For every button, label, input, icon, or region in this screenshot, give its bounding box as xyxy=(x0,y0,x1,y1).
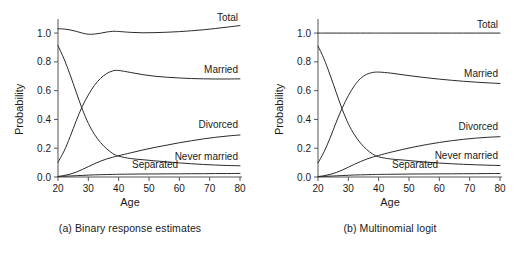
curve-label-total: Total xyxy=(477,19,498,30)
series-line-total xyxy=(58,26,240,35)
plot-area-a: 0.00.20.40.60.81.020304050607080TotalMar… xyxy=(0,0,260,253)
y-axis-tick-label: 1.0 xyxy=(297,28,311,39)
x-axis-tick-label: 70 xyxy=(204,183,216,194)
y-axis-title-b: Probability xyxy=(273,84,285,135)
y-axis-tick-label: 0.4 xyxy=(37,114,51,125)
y-axis-tick-label: 0.0 xyxy=(297,172,311,183)
curve-label-married: Married xyxy=(464,68,498,79)
x-axis-tick-label: 50 xyxy=(403,183,415,194)
x-axis-tick-label: 40 xyxy=(113,183,125,194)
x-axis-tick-label: 20 xyxy=(312,183,324,194)
figure-marital-status-probabilities: 0.00.20.40.60.81.020304050607080TotalMar… xyxy=(0,0,520,253)
x-axis-tick-label: 60 xyxy=(174,183,186,194)
y-axis-tick-label: 0.0 xyxy=(37,172,51,183)
y-axis-tick-label: 0.2 xyxy=(37,143,51,154)
x-axis-title-b: Age xyxy=(260,196,520,208)
panel-caption-b: (b) Multinomial logit xyxy=(260,222,520,234)
x-axis-tick-label: 80 xyxy=(234,183,246,194)
curve-label-separated: Separated xyxy=(392,159,438,170)
x-axis-title-a: Age xyxy=(0,196,260,208)
y-axis-tick-label: 1.0 xyxy=(37,28,51,39)
x-axis-tick-label: 30 xyxy=(343,183,355,194)
curve-label-never-married: Never married xyxy=(175,151,238,162)
curve-label-divorced: Divorced xyxy=(199,119,238,130)
x-axis-tick-label: 40 xyxy=(373,183,385,194)
y-axis-title-a: Probability xyxy=(13,84,25,135)
curve-label-married: Married xyxy=(204,64,238,75)
series-line-separated xyxy=(58,173,240,176)
x-axis-tick-label: 70 xyxy=(464,183,476,194)
curve-label-divorced: Divorced xyxy=(459,121,498,132)
series-line-separated xyxy=(318,174,500,177)
y-axis-tick-label: 0.6 xyxy=(297,85,311,96)
curve-label-separated: Separated xyxy=(132,159,178,170)
plot-area-b: 0.00.20.40.60.81.020304050607080TotalMar… xyxy=(260,0,520,253)
x-axis-tick-label: 20 xyxy=(52,183,64,194)
curve-label-total: Total xyxy=(217,12,238,23)
y-axis-tick-label: 0.4 xyxy=(297,114,311,125)
panel-a: 0.00.20.40.60.81.020304050607080TotalMar… xyxy=(0,0,260,253)
x-axis-tick-label: 60 xyxy=(434,183,446,194)
y-axis-tick-label: 0.8 xyxy=(297,56,311,67)
y-axis-tick-label: 0.6 xyxy=(37,85,51,96)
x-axis-tick-label: 50 xyxy=(143,183,155,194)
panel-b: 0.00.20.40.60.81.020304050607080TotalMar… xyxy=(260,0,520,253)
curve-label-never-married: Never married xyxy=(435,150,498,161)
y-axis-tick-label: 0.8 xyxy=(37,56,51,67)
panel-caption-a: (a) Binary response estimates xyxy=(0,222,260,234)
x-axis-tick-label: 30 xyxy=(83,183,95,194)
y-axis-tick-label: 0.2 xyxy=(297,143,311,154)
x-axis-tick-label: 80 xyxy=(494,183,506,194)
